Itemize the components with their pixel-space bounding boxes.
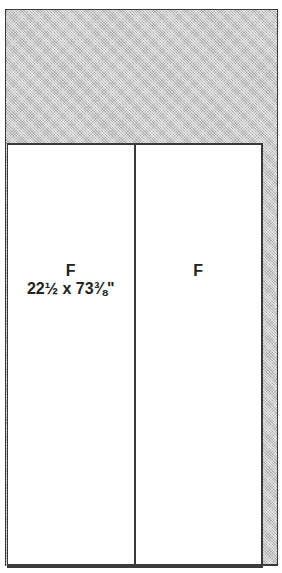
panel-left-label: F [8, 262, 134, 280]
panel-right-label: F [136, 262, 262, 280]
panel-left: F 22½ x 73⅜" [8, 145, 134, 566]
panel-left-dimensions: 22½ x 73⅜" [8, 280, 134, 298]
panel-area: F 22½ x 73⅜" F [7, 143, 263, 568]
panel-right: F [134, 145, 262, 566]
base-line [7, 564, 277, 566]
